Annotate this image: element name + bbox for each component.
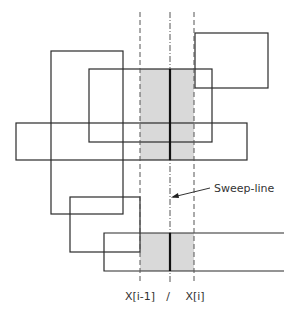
shaded-slab <box>140 69 194 271</box>
shaded-region-upper <box>140 69 194 160</box>
rect-a <box>51 51 123 214</box>
rect-d <box>195 33 268 88</box>
arrow-shaft <box>173 188 210 197</box>
shaded-region-lower <box>140 233 194 271</box>
x-prev-label: X[i-1] <box>125 290 155 303</box>
sweep-line-callout: Sweep-line <box>171 182 275 198</box>
rect-e <box>70 197 140 252</box>
arrow-head-icon <box>171 193 179 198</box>
sweep-line-label: Sweep-line <box>214 182 275 195</box>
sweep-diagram: Sweep-line X[i-1] / X[i] <box>0 0 294 316</box>
x-curr-label: X[i] <box>185 290 204 303</box>
sweep-tick-label: / <box>166 290 170 303</box>
